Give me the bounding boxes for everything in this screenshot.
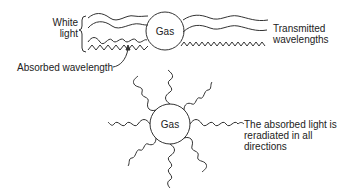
ray-up [166, 70, 173, 104]
transmitted-wave-3 [181, 42, 265, 46]
top-gas-label: Gas [156, 26, 174, 37]
incoming-wave-1 [88, 14, 148, 20]
incoming-wave-4 [88, 45, 148, 50]
reradiated-line3: directions [244, 141, 337, 152]
transmitted-line2: wavelengths [273, 34, 329, 45]
ray-upright [184, 82, 212, 110]
white-light-bracket [79, 16, 86, 52]
absorbed-wavelength-label: Absorbed wavelength [17, 62, 113, 73]
bottom-gas-label: Gas [161, 119, 179, 130]
ray-downleft [128, 138, 156, 166]
white-light-label: White light [50, 17, 78, 39]
incoming-wave-2 [88, 22, 148, 28]
transmitted-wave-1 [183, 15, 268, 20]
transmitted-wavelengths-label: Transmitted wavelengths [273, 23, 329, 45]
reradiated-label: The absorbed light is reradiated in all … [244, 119, 337, 152]
reradiated-line1: The absorbed light is [244, 119, 337, 130]
absorbed-arrow [113, 49, 128, 67]
white-light-line2: light [50, 28, 78, 39]
ray-downright [184, 137, 207, 172]
ray-left [108, 120, 150, 126]
transmitted-wave-2 [183, 25, 267, 32]
absorbed-arrowhead [126, 45, 130, 50]
incoming-wave-3 [88, 38, 147, 44]
ray-down [168, 144, 175, 188]
ray-upleft [133, 76, 156, 111]
white-light-line1: White [50, 17, 78, 28]
ray-right [190, 120, 238, 126]
transmitted-line1: Transmitted [273, 23, 329, 34]
reradiated-line2: reradiated in all [244, 130, 337, 141]
